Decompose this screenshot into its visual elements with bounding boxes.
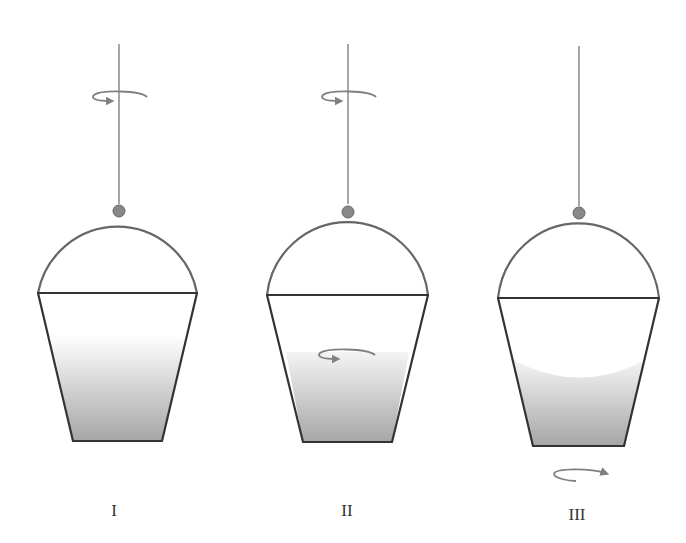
handle-knob bbox=[342, 206, 354, 218]
rope-rotation-arrow-icon bbox=[322, 91, 376, 101]
water bbox=[286, 352, 409, 442]
bucket-handle bbox=[267, 222, 428, 295]
water-concave bbox=[514, 360, 645, 446]
panel-label-1: I bbox=[111, 501, 117, 521]
bucket-panel-1 bbox=[38, 44, 197, 441]
bucket-rotation-arrow-icon bbox=[554, 469, 605, 481]
panel-label-3: III bbox=[569, 505, 586, 525]
handle-knob bbox=[573, 207, 585, 219]
bucket-panel-3 bbox=[498, 46, 659, 481]
bucket-handle bbox=[498, 223, 659, 298]
panel-label-2: II bbox=[341, 501, 352, 521]
handle-knob bbox=[113, 205, 125, 217]
bucket-handle bbox=[38, 227, 197, 293]
bucket-diagram bbox=[0, 0, 686, 543]
bucket-panel-2 bbox=[267, 44, 428, 442]
rope-rotation-arrow-icon bbox=[93, 91, 147, 101]
